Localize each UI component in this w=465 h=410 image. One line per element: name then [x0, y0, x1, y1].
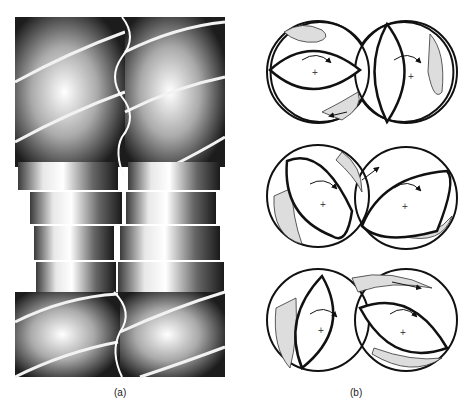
right-screw-bottom	[120, 292, 225, 377]
center-mark-right: +	[408, 71, 414, 82]
kneading-cross-sections: + + + +	[262, 4, 462, 380]
kneading-disc-block	[18, 162, 224, 292]
caption-b: (b)	[350, 387, 362, 398]
right-screw-top	[125, 17, 225, 167]
cross-section-3: + +	[267, 269, 457, 371]
center-mark-right: +	[402, 201, 408, 212]
caption-a: (a)	[114, 387, 126, 398]
left-screw-top	[15, 17, 125, 167]
center-mark-right: +	[400, 327, 406, 338]
cross-section-2: + +	[267, 145, 457, 249]
center-mark-left: +	[318, 325, 324, 336]
twin-screw-illustration	[10, 12, 230, 380]
twin-screw-drawing	[10, 12, 230, 380]
cross-section-1: + +	[267, 21, 457, 123]
center-mark-left: +	[320, 199, 326, 210]
left-screw-bottom	[15, 292, 120, 377]
center-mark-left: +	[312, 67, 318, 78]
